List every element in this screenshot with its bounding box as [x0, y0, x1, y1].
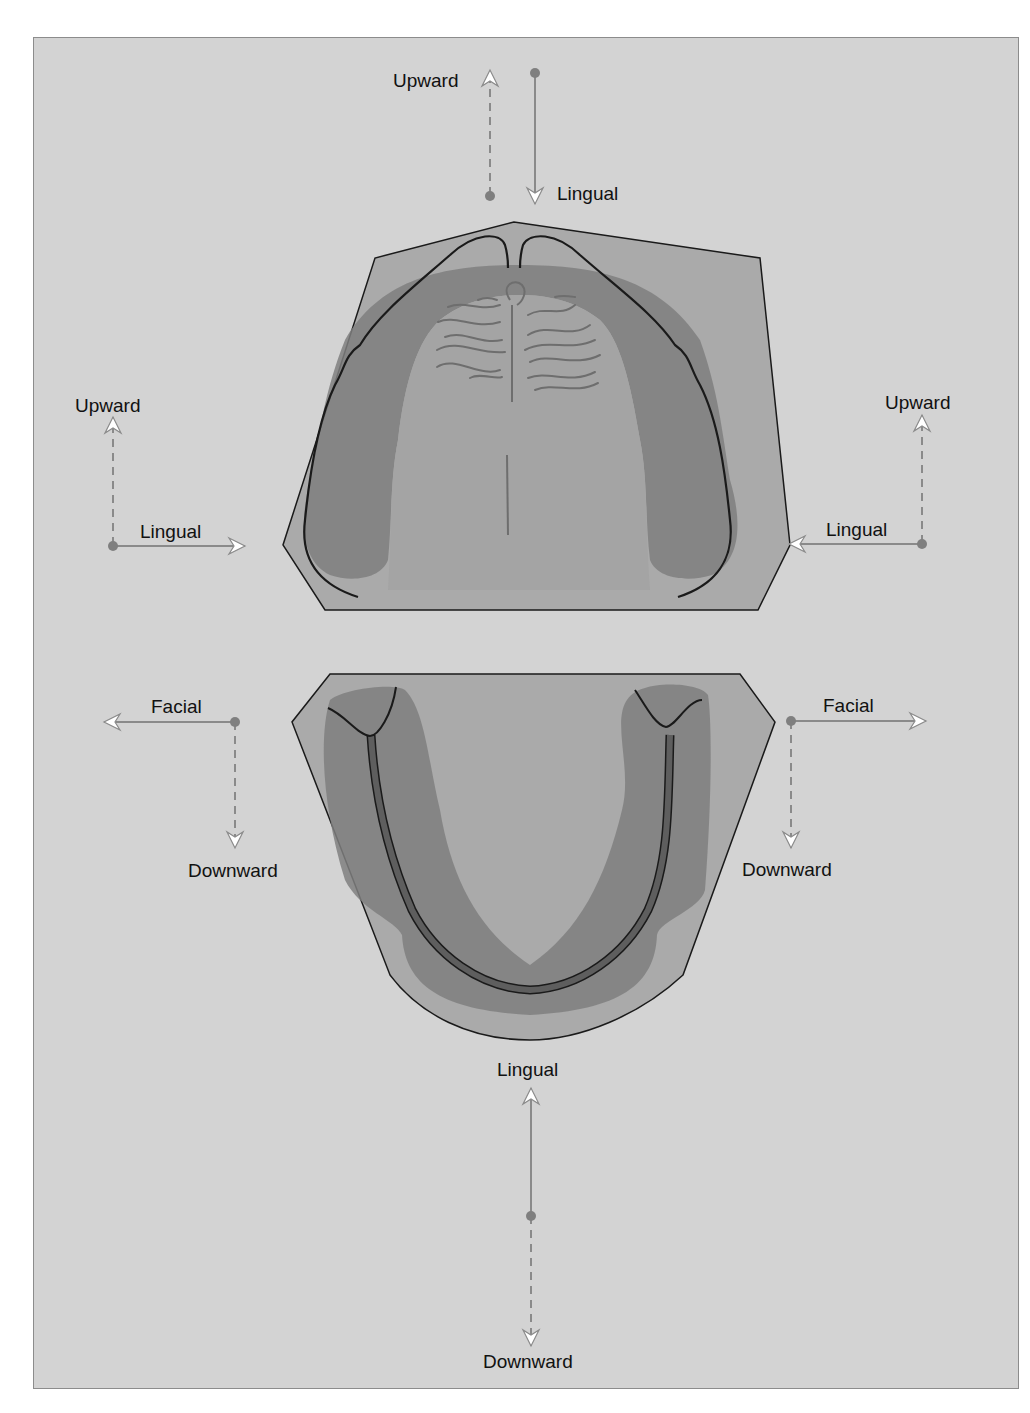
origin-dot: [108, 541, 118, 551]
label-downward: Downward: [188, 860, 278, 881]
lower-arch: [292, 674, 775, 1040]
origin-dot: [230, 717, 240, 727]
label-facial: Facial: [823, 695, 874, 716]
label-downward: Downward: [742, 859, 832, 880]
label-downward: Downward: [483, 1351, 573, 1372]
origin-dot: [526, 1211, 536, 1221]
label-lingual: Lingual: [140, 521, 201, 542]
origin-dot: [786, 716, 796, 726]
mid-palatal-raphe-lower: [507, 455, 508, 535]
upper-palate: [388, 295, 650, 590]
origin-dot: [530, 68, 540, 78]
origin-dot: [485, 191, 495, 201]
arrow-set-lower-left: Facial Downward: [104, 696, 278, 881]
upper-arch: [283, 222, 790, 610]
arrow-set-upper-right: Upward Lingual: [789, 392, 950, 549]
label-lingual: Lingual: [497, 1059, 558, 1080]
arrow-set-upper-left: Upward Lingual: [75, 395, 245, 551]
dental-arches-diagram: Upward Lingual Upward Lingual Upward Lin…: [0, 0, 1030, 1413]
arrow-set-top: Upward Lingual: [393, 68, 618, 204]
label-upward: Upward: [885, 392, 950, 413]
label-lingual: Lingual: [557, 183, 618, 204]
label-upward: Upward: [75, 395, 140, 416]
label-lingual: Lingual: [826, 519, 887, 540]
label-upward: Upward: [393, 70, 458, 91]
arrow-set-bottom: Lingual Downward: [483, 1059, 573, 1372]
label-facial: Facial: [151, 696, 202, 717]
origin-dot: [917, 539, 927, 549]
